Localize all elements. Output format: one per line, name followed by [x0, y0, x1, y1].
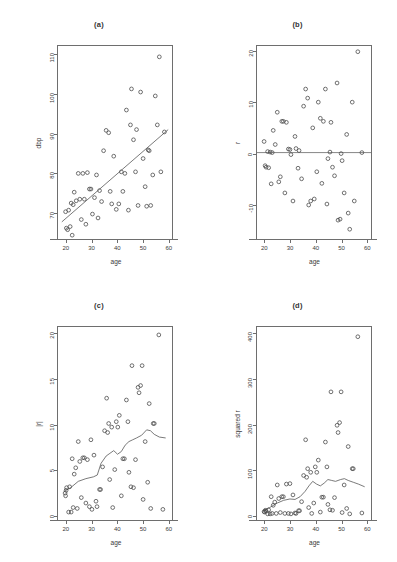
data-point — [275, 483, 279, 487]
panel-c-x-tick-label: 60 — [166, 526, 173, 532]
data-point — [136, 204, 140, 208]
panel-d-x-tick-label: 60 — [364, 526, 371, 532]
data-point — [119, 494, 123, 498]
data-point — [313, 465, 317, 469]
data-point — [299, 500, 303, 504]
data-point — [153, 94, 157, 98]
data-point — [149, 204, 153, 208]
data-point — [117, 413, 121, 417]
data-point — [291, 199, 295, 203]
data-point — [328, 150, 332, 154]
panel-c-y-tick-label: 10 — [49, 424, 55, 431]
data-point — [336, 431, 340, 435]
data-point — [141, 157, 145, 161]
panel-d-y-tick-label: 300 — [248, 378, 254, 388]
data-point — [157, 55, 161, 59]
data-point — [107, 131, 111, 135]
data-point — [137, 391, 141, 395]
data-point — [112, 154, 116, 158]
data-point — [76, 440, 80, 444]
data-point — [329, 120, 333, 124]
data-point — [84, 222, 88, 226]
panel-a-x-tick-label: 20 — [62, 245, 69, 251]
panel-b-y-tick: -10 — [242, 201, 251, 207]
data-point — [305, 96, 309, 100]
data-point — [326, 157, 330, 161]
data-point — [266, 166, 270, 170]
data-point — [293, 135, 297, 139]
data-point — [304, 475, 308, 479]
data-point — [79, 496, 83, 500]
panel-c-y-tick-label: 15 — [49, 378, 55, 385]
panel-b-y-tick-label: -10 — [248, 204, 254, 213]
panel-a-x-tick-label: 60 — [166, 245, 173, 251]
data-point — [323, 440, 327, 444]
data-point — [114, 420, 118, 424]
data-point — [289, 153, 293, 157]
data-point — [299, 177, 303, 181]
data-point — [145, 204, 149, 208]
panel-b-x-axis-label: age — [257, 258, 373, 265]
data-point — [117, 202, 121, 206]
panel-a: (a) dbp age 7080901001102030405060 — [0, 0, 198, 281]
data-point — [308, 470, 312, 474]
panel-c-lowess-curve — [64, 430, 165, 491]
panel-d-y-tick-label: 100 — [248, 469, 254, 479]
panel-d-y-tick: 0 — [247, 512, 250, 518]
panel-b-y-tick: 10 — [244, 98, 251, 104]
panel-d-y-tick-label: 400 — [248, 332, 254, 342]
panel-a-x-tick-label: 30 — [88, 245, 95, 251]
data-point — [310, 126, 314, 130]
data-point — [269, 495, 273, 499]
data-point — [135, 128, 139, 132]
panel-c-x-axis-line — [50, 520, 178, 521]
data-point — [262, 140, 266, 144]
panel-c-y-tick-label: 5 — [49, 469, 55, 472]
data-point — [129, 123, 133, 127]
data-point — [271, 129, 275, 133]
data-point — [340, 159, 344, 163]
data-point — [105, 396, 109, 400]
panel-c-x-tick-label: 40 — [114, 526, 121, 532]
panel-d-title: (d) — [199, 301, 397, 310]
data-point — [121, 190, 125, 194]
data-point — [130, 364, 134, 368]
data-point — [278, 511, 282, 515]
data-point — [314, 470, 318, 474]
data-point — [346, 211, 350, 215]
data-point — [147, 149, 151, 153]
panel-b-x-tick-label: 50 — [338, 245, 345, 251]
data-point — [297, 149, 301, 153]
panel-a-y-tick: 80 — [45, 169, 52, 175]
data-point — [143, 440, 147, 444]
panel-b-y-tick-label: 0 — [248, 153, 254, 156]
panel-c-y-tick: 5 — [49, 466, 52, 472]
data-point — [151, 173, 155, 177]
panel-c-y-tick: 15 — [45, 375, 52, 381]
data-point — [323, 87, 327, 91]
panel-a-y-axis-label: dbp — [35, 137, 42, 148]
data-point — [360, 511, 364, 515]
data-point — [78, 460, 82, 464]
data-point — [291, 493, 295, 497]
data-point — [303, 438, 307, 442]
panel-a-y-tick: 110 — [42, 50, 52, 56]
data-point — [326, 503, 330, 507]
data-point — [159, 170, 163, 174]
panel-c-title: (c) — [0, 301, 198, 310]
panel-d-x-tick-label: 30 — [287, 526, 294, 532]
data-point — [344, 133, 348, 137]
data-point — [89, 438, 93, 442]
figure-2x2-diagnostic-plots: (a) dbp age 7080901001102030405060 (b) r… — [0, 0, 397, 562]
data-point — [301, 104, 305, 108]
data-point — [116, 425, 120, 429]
data-point — [95, 505, 99, 509]
data-point — [108, 478, 112, 482]
panel-c-y-tick: 0 — [49, 512, 52, 518]
panel-d-x-tick-label: 20 — [261, 526, 268, 532]
data-point — [350, 100, 354, 104]
data-point — [86, 458, 90, 462]
data-point — [319, 181, 323, 185]
panel-c-x-axis-label: age — [58, 539, 174, 546]
data-point — [86, 171, 90, 175]
